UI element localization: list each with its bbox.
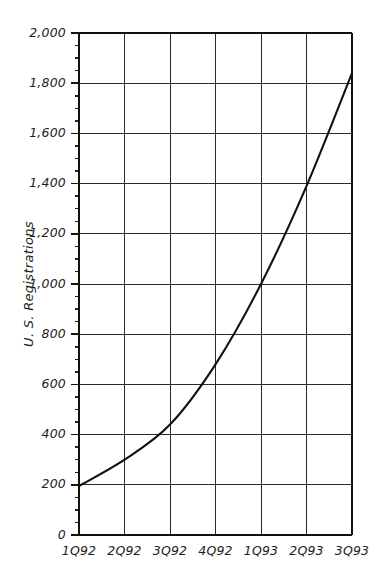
x-axis-tick-label: 2Q92 bbox=[107, 543, 142, 558]
y-axis-tick-label: 1,400 bbox=[29, 175, 66, 190]
x-axis-tick-label: 4Q92 bbox=[198, 543, 233, 558]
x-axis-tick-label: 2Q93 bbox=[289, 543, 324, 558]
y-axis-tick-label: 800 bbox=[42, 326, 66, 341]
x-axis-tick-labels: 1Q922Q923Q924Q921Q932Q933Q93 bbox=[62, 543, 370, 558]
y-axis-title: U. S. Registrations bbox=[21, 221, 36, 347]
x-axis-tick-label: 1Q92 bbox=[62, 543, 97, 558]
x-axis-tick-label: 1Q93 bbox=[244, 543, 279, 558]
y-axis-tick-label: 1,800 bbox=[29, 75, 66, 90]
y-axis-tick-label: 400 bbox=[42, 426, 66, 441]
y-axis-tick-label: 600 bbox=[42, 376, 66, 391]
x-axis-tick-label: 3Q93 bbox=[335, 543, 370, 558]
y-axis-tick-label: 200 bbox=[42, 476, 66, 491]
line-chart-canvas: 02004006008001,0001,2001,4001,6001,8002,… bbox=[0, 0, 382, 586]
y-axis-tick-label: 2,000 bbox=[29, 25, 66, 40]
chart-figure: 02004006008001,0001,2001,4001,6001,8002,… bbox=[0, 0, 382, 586]
x-axis-tick-label: 3Q92 bbox=[153, 543, 188, 558]
y-axis-tick-label: 1,600 bbox=[29, 125, 66, 140]
y-axis-title-text: U. S. Registrations bbox=[21, 221, 36, 347]
y-axis-tick-label: 0 bbox=[58, 527, 66, 542]
